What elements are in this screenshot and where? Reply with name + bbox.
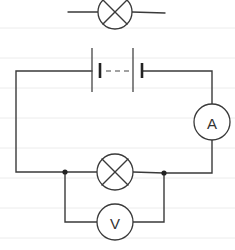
lamp [97, 154, 133, 190]
junction-left [62, 169, 67, 174]
lamp-key-symbol [68, 0, 165, 29]
battery [92, 48, 142, 92]
ammeter-label: A [207, 115, 217, 132]
voltmeter-label: V [110, 215, 120, 232]
ammeter: A [194, 104, 230, 140]
voltmeter: V [97, 204, 133, 240]
circuit-diagram: A V [0, 0, 235, 250]
circuit-wires [16, 71, 212, 222]
junction-right [161, 170, 166, 175]
